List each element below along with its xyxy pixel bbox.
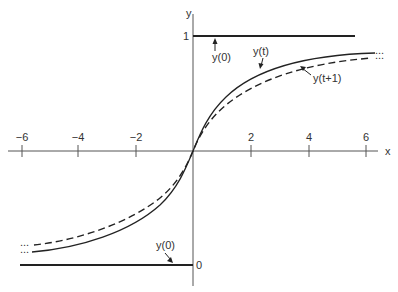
tick-label-6: 6	[363, 131, 369, 143]
y-tick-label-1: 1	[183, 30, 189, 42]
y-axis-label: y	[186, 7, 192, 19]
annotation-yt1: y(t+1)	[313, 72, 341, 84]
tick-label-2: 2	[248, 131, 254, 143]
ellipsis-left-solid: ...	[20, 243, 29, 255]
x-axis-label: x	[385, 145, 391, 157]
chart: −6 −4 −2 2 4 6 x y 1 0 ... ... ... ... y…	[0, 0, 398, 292]
arrowhead-y0-top	[213, 38, 218, 44]
ellipsis-right-dashed: ...	[375, 49, 384, 61]
annotation-yt: y(t)	[253, 45, 269, 57]
arrowhead-yt	[259, 63, 264, 69]
tick-label-neg6: −6	[16, 131, 29, 143]
annotation-y0-bottom: y(0)	[156, 239, 175, 251]
arrowhead-y0-bottom	[167, 257, 173, 263]
y-tick-label-0: 0	[196, 259, 202, 271]
tick-label-4: 4	[306, 131, 312, 143]
tick-label-neg2: −2	[130, 131, 143, 143]
tick-label-neg4: −4	[72, 131, 85, 143]
annotation-y0-top: y(0)	[212, 51, 231, 63]
